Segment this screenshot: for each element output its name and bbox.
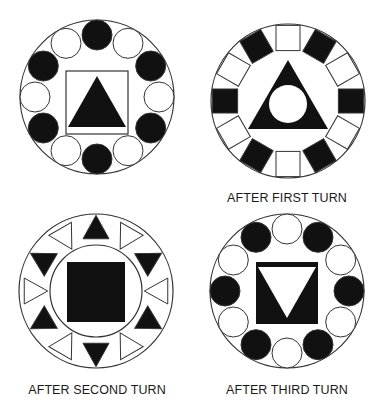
ring-square-black — [303, 30, 336, 64]
ring-triangle-white — [109, 326, 143, 359]
ring-square-black — [303, 139, 336, 173]
center-circle-hole — [269, 85, 307, 123]
ring-circle-black — [241, 330, 271, 360]
ring-triangle-black — [135, 306, 168, 340]
ring-circle-black — [136, 113, 166, 143]
ring-square-black — [240, 30, 273, 64]
ring-square-white — [217, 53, 251, 86]
ring-circle-black — [241, 222, 271, 252]
ring-triangle-black — [83, 215, 109, 238]
ring-circle-black — [82, 20, 112, 50]
ring-triangle-white — [109, 222, 143, 255]
figure-initial — [20, 20, 174, 174]
ring-square-white — [326, 53, 360, 86]
ring-square-white — [276, 25, 300, 50]
ring-circle-black — [303, 330, 333, 360]
ring-circle-white — [51, 136, 81, 166]
ring-circle-white — [20, 82, 50, 112]
puzzle-diagram — [0, 0, 385, 417]
figure-after-first-turn — [211, 24, 365, 178]
ring-circle-white — [218, 307, 248, 337]
ring-circle-white — [326, 307, 356, 337]
ring-triangle-white — [49, 222, 83, 255]
ring-circle-black — [334, 276, 364, 306]
ring-circle-white — [113, 28, 143, 58]
ring-triangle-black — [24, 242, 57, 276]
ring-square-black — [338, 89, 363, 113]
ring-circle-black — [28, 51, 58, 81]
caption-after-second-turn: AFTER SECOND TURN — [14, 383, 180, 397]
ring-square-black — [240, 139, 273, 173]
ring-square-white — [276, 151, 300, 176]
figure-after-third-turn — [210, 214, 364, 368]
ring-square-black — [212, 89, 237, 113]
ring-circle-black — [210, 276, 240, 306]
ring-circle-white — [272, 338, 302, 368]
ring-square-white — [217, 116, 251, 149]
center-triangle-up — [68, 76, 126, 127]
ring-triangle-white — [144, 278, 167, 304]
figure-after-second-turn — [19, 214, 173, 368]
ring-circle-black — [303, 222, 333, 252]
caption-after-first-turn: AFTER FIRST TURN — [212, 191, 362, 205]
ring-triangle-white — [49, 326, 83, 359]
ring-triangle-black — [135, 242, 168, 276]
ring-circle-black — [82, 144, 112, 174]
ring-triangle-white — [24, 278, 47, 304]
ring-circle-white — [51, 28, 81, 58]
ring-circle-white — [113, 136, 143, 166]
ring-circle-white — [218, 245, 248, 275]
ring-triangle-black — [83, 343, 109, 366]
ring-circle-white — [326, 245, 356, 275]
ring-triangle-black — [24, 306, 57, 340]
caption-after-third-turn: AFTER THIRD TURN — [210, 383, 364, 397]
ring-circle-white — [272, 214, 302, 244]
ring-circle-black — [136, 51, 166, 81]
ring-circle-white — [144, 82, 174, 112]
ring-circle-black — [28, 113, 58, 143]
ring-square-white — [326, 116, 360, 149]
center-square — [67, 262, 125, 322]
